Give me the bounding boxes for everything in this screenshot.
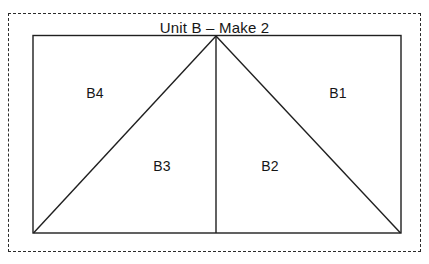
unit-b-diagram: Unit B – Make 2 B4 B1 B3 B2 [0,0,429,264]
piece-label-b2: B2 [261,158,279,174]
piece-label-b4: B4 [86,85,104,101]
unit-rectangle-geometry [0,0,429,264]
unit-title: Unit B – Make 2 [0,19,429,36]
unit-rectangle [33,36,401,234]
piece-label-b1: B1 [329,85,347,101]
piece-label-b3: B3 [153,158,171,174]
